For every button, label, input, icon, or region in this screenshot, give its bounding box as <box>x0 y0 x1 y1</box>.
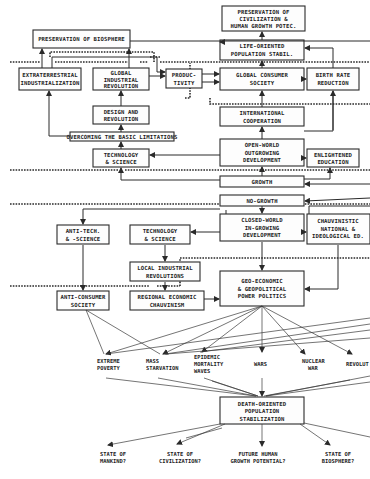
svg-text:WARS: WARS <box>254 361 267 367</box>
node-growth: GROWTH <box>220 176 304 187</box>
svg-text:STATE OF: STATE OF <box>167 451 193 457</box>
outcome-mass-starvation: MASS STARVATION <box>146 358 178 371</box>
svg-text:PRESERVATION OF: PRESERVATION OF <box>237 9 290 15</box>
svg-text:& GEOPOLITICAL: & GEOPOLITICAL <box>238 286 287 292</box>
svg-text:DEVELOPMENT: DEVELOPMENT <box>243 157 282 163</box>
svg-text:GEO-ECONOMIC: GEO-ECONOMIC <box>241 278 283 284</box>
svg-text:DEVELOPMENT: DEVELOPMENT <box>243 232 282 238</box>
svg-text:LIFE-ORIENTED: LIFE-ORIENTED <box>239 43 285 49</box>
node-extraterrestrial: EXTRATERRESTRIAL INDUSTRIALIZATION <box>19 68 81 90</box>
svg-text:MORTALITY: MORTALITY <box>194 361 224 367</box>
svg-text:REVOLUT: REVOLUT <box>346 361 369 367</box>
node-preservation-biosphere: PRESERVATION OF BIOSPHERE <box>33 30 130 48</box>
svg-text:TECHNOLOGY: TECHNOLOGY <box>104 152 139 158</box>
svg-text:FUTURE HUMAN: FUTURE HUMAN <box>239 451 278 457</box>
svg-text:SOCIETY: SOCIETY <box>71 302 96 308</box>
svg-text:& SCIENCE: & SCIENCE <box>144 236 175 242</box>
node-open-world: OPEN-WORLD OUTGROWING DEVELOPMENT <box>220 139 304 166</box>
svg-text:IDEOLOGICAL ED.: IDEOLOGICAL ED. <box>312 233 364 239</box>
svg-text:MASS: MASS <box>146 358 159 364</box>
svg-text:WAR: WAR <box>308 365 318 371</box>
node-local-industrial: LOCAL INDUSTRIAL REVOLUTIONS <box>130 262 200 281</box>
svg-text:EPIDEMIC: EPIDEMIC <box>194 354 220 360</box>
svg-text:STARVATION: STARVATION <box>146 365 178 371</box>
svg-text:CLOSED-WORLD: CLOSED-WORLD <box>241 217 283 223</box>
svg-text:INDUSTRIAL: INDUSTRIAL <box>104 77 139 83</box>
svg-text:PRODUC-: PRODUC- <box>172 72 196 78</box>
svg-text:POPULATION: POPULATION <box>245 408 280 414</box>
svg-text:PRESERVATION OF BIOSPHERE: PRESERVATION OF BIOSPHERE <box>38 36 125 42</box>
svg-text:GROWTH: GROWTH <box>252 179 273 185</box>
svg-text:COOPERATION: COOPERATION <box>243 118 282 124</box>
converge-arrows <box>106 376 370 396</box>
svg-text:EXTRATERRESTRIAL: EXTRATERRESTRIAL <box>22 72 78 78</box>
svg-text:IN-GROWING: IN-GROWING <box>245 225 280 231</box>
svg-text:ANTI-CONSUMER: ANTI-CONSUMER <box>60 294 106 300</box>
svg-text:& -SCIENCE: & -SCIENCE <box>66 236 101 242</box>
svg-text:MANKIND?: MANKIND? <box>100 458 126 464</box>
svg-text:HUMAN GROWTH POTEC.: HUMAN GROWTH POTEC. <box>231 23 297 29</box>
node-anti-consumer: ANTI-CONSUMER SOCIETY <box>57 291 109 310</box>
connectors-upper <box>42 32 370 201</box>
outcome-revolution: REVOLUT <box>346 361 369 367</box>
svg-text:TECHNOLOGY: TECHNOLOGY <box>143 228 178 234</box>
svg-text:CHAUVINISTIC: CHAUVINISTIC <box>317 218 359 224</box>
svg-text:EDUCATION: EDUCATION <box>317 159 349 165</box>
svg-text:NATIONAL &: NATIONAL & <box>321 226 356 232</box>
node-global-consumer: GLOBAL CONSUMER SOCIETY <box>220 68 304 90</box>
final-state-biosphere: STATE OF BIOSPHERE? <box>322 451 354 464</box>
svg-text:NO-GROWTH: NO-GROWTH <box>246 198 277 204</box>
final-state-mankind: STATE OF MANKIND? <box>100 451 126 464</box>
svg-text:BIOSPHERE?: BIOSPHERE? <box>322 458 354 464</box>
node-design-revolution: DESIGN AND REVOLUTION <box>93 106 149 124</box>
svg-text:STATE OF: STATE OF <box>100 451 126 457</box>
svg-text:OVERCOMING THE BASIC LIMITATIO: OVERCOMING THE BASIC LIMITATIONS <box>67 134 178 140</box>
svg-text:& SCIENCE: & SCIENCE <box>105 159 136 165</box>
node-international: INTERNATIONAL COOPERATION <box>220 107 304 126</box>
svg-text:BIRTH RATE: BIRTH RATE <box>316 72 351 78</box>
node-enlightened: ENLIGHTENED EDUCATION <box>307 149 359 167</box>
svg-text:TIVITY: TIVITY <box>174 80 195 86</box>
outcome-arrows <box>86 306 370 354</box>
node-chauvinistic: CHAUVINISTIC NATIONAL & IDEOLOGICAL ED. <box>307 214 370 244</box>
outcome-nuclear-war: NUCLEAR WAR <box>302 358 325 371</box>
svg-text:INTERNATIONAL: INTERNATIONAL <box>239 110 285 116</box>
node-anti-tech: ANTI-TECH. & -SCIENCE <box>57 225 109 244</box>
svg-text:GLOBAL CONSUMER: GLOBAL CONSUMER <box>236 72 289 78</box>
svg-text:REVOLUTION: REVOLUTION <box>104 116 139 122</box>
svg-text:POVERTY: POVERTY <box>97 365 120 371</box>
node-geo-economic: GEO-ECONOMIC & GEOPOLITICAL POWER POLITI… <box>220 271 304 306</box>
svg-text:GROWTH POTENTIAL?: GROWTH POTENTIAL? <box>230 458 285 464</box>
svg-text:STABILIZATION: STABILIZATION <box>239 416 285 422</box>
node-overcoming: OVERCOMING THE BASIC LIMITATIONS <box>67 132 178 141</box>
svg-text:CHAUVINISM: CHAUVINISM <box>150 302 185 308</box>
node-preservation-civilization: PRESERVATION OF CIVILIZATION & HUMAN GRO… <box>222 6 305 31</box>
node-life-oriented: LIFE-ORIENTED POPULATION STABIL. <box>220 40 304 60</box>
node-death-oriented: DEATH-ORIENTED POPULATION STABILIZATION <box>220 397 304 424</box>
svg-text:DEATH-ORIENTED: DEATH-ORIENTED <box>238 401 287 407</box>
svg-text:REVOLUTIONS: REVOLUTIONS <box>146 273 185 279</box>
svg-text:INDUSTRIALIZATION: INDUSTRIALIZATION <box>21 80 80 86</box>
node-closed-world: CLOSED-WORLD IN-GROWING DEVELOPMENT <box>220 214 304 241</box>
svg-text:ANTI-TECH.: ANTI-TECH. <box>66 228 101 234</box>
svg-text:STATE OF: STATE OF <box>325 451 351 457</box>
node-tech-science-bottom: TECHNOLOGY & SCIENCE <box>130 225 190 244</box>
svg-text:POWER POLITICS: POWER POLITICS <box>238 293 287 299</box>
svg-text:LOCAL INDUSTRIAL: LOCAL INDUSTRIAL <box>137 265 193 271</box>
svg-text:REVOLUTION: REVOLUTION <box>104 83 139 89</box>
svg-text:REGIONAL ECONOMIC: REGIONAL ECONOMIC <box>138 294 197 300</box>
svg-text:DESIGN AND: DESIGN AND <box>104 109 139 115</box>
svg-text:WAVES: WAVES <box>194 368 210 374</box>
outcome-epidemic: EPIDEMIC MORTALITY WAVES <box>194 354 224 374</box>
svg-text:EXTREME: EXTREME <box>97 358 120 364</box>
svg-text:OPEN-WORLD: OPEN-WORLD <box>245 142 280 148</box>
svg-text:CIVILIZATION?: CIVILIZATION? <box>159 458 201 464</box>
svg-text:CIVILIZATION &: CIVILIZATION & <box>239 16 288 22</box>
svg-text:SOCIETY: SOCIETY <box>250 80 275 86</box>
final-state-civilization: STATE OF CIVILIZATION? <box>159 451 201 464</box>
flow-diagram: PRESERVATION OF BIOSPHERE PRESERVATION O… <box>0 0 370 479</box>
svg-text:OUTGROWING: OUTGROWING <box>245 150 280 156</box>
final-arrows <box>108 423 370 446</box>
outcome-extreme-poverty: EXTREME POVERTY <box>97 358 120 371</box>
node-tech-science-top: TECHNOLOGY & SCIENCE <box>93 149 149 167</box>
